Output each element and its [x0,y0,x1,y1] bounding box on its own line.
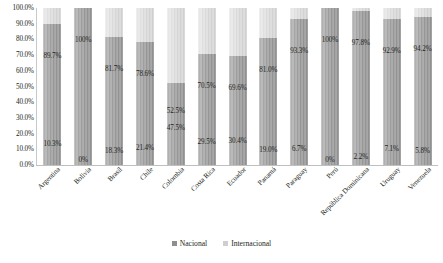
bar-segment-internacional[interactable] [105,8,123,37]
legend-swatch-icon [172,241,177,246]
bar-group[interactable] [105,8,123,165]
y-axis-tick-label: 0.0% [19,161,34,169]
value-label-nacional: 93.3% [290,47,308,55]
y-axis-tick-label: 30.0% [16,114,34,122]
value-label-nacional: 94.2% [414,45,432,53]
bar-segment-nacional[interactable] [321,8,339,165]
value-label-internacional: 47.5% [167,124,185,132]
x-axis-line [36,165,438,166]
legend-label: Internacional [231,239,271,248]
bar-group[interactable] [74,8,92,165]
value-label-internacional: 10.3% [43,140,61,148]
legend-item[interactable]: Nacional [172,239,207,248]
y-axis-tick-label: 10.0% [16,145,34,153]
y-axis: 0.0%10.0%20.0%30.0%40.0%50.0%60.0%70.0%8… [0,8,36,165]
chart-legend: NacionalInternacional [0,239,443,248]
value-label-internacional: 6.7% [292,145,307,153]
value-label-internacional: 18.3% [105,147,123,155]
y-axis-tick-label: 60.0% [16,67,34,75]
value-label-nacional: 92.9% [383,47,401,55]
bar-segment-internacional[interactable] [229,8,247,56]
y-axis-tick-label: 40.0% [16,98,34,106]
bar-segment-nacional[interactable] [414,17,432,165]
bar-group[interactable] [352,8,370,165]
legend-item[interactable]: Internacional [223,239,271,248]
y-axis-tick-label: 100.0% [12,4,34,12]
value-label-nacional: 52.5% [167,107,185,115]
value-label-nacional: 81.0% [259,66,277,74]
value-label-internacional: 30.4% [228,137,246,145]
bar-group[interactable] [290,8,308,165]
bar-segment-internacional[interactable] [290,8,308,19]
value-label-internacional: 29.5% [198,138,216,146]
value-label-nacional: 97.8% [352,39,370,47]
bar-segment-internacional[interactable] [259,8,277,38]
bar-group[interactable] [321,8,339,165]
value-label-nacional: 78.6% [136,70,154,78]
value-label-internacional: 19.0% [259,146,277,154]
value-label-nacional: 81.7% [105,65,123,73]
y-axis-tick-label: 70.0% [16,51,34,59]
y-axis-tick-label: 50.0% [16,83,34,91]
bar-group[interactable] [259,8,277,165]
x-axis-category-labels: ArgentinaBoliviaBrasilChileColombiaCosta… [37,167,438,229]
value-label-internacional: 2.2% [354,153,369,161]
bar-segment-internacional[interactable] [198,8,216,54]
y-axis-tick-label: 20.0% [16,130,34,138]
bar-segment-internacional[interactable] [414,8,432,17]
legend-label: Nacional [180,239,207,248]
bar-group[interactable] [167,8,185,165]
legend-swatch-icon [223,241,228,246]
bar-segment-internacional[interactable] [43,8,61,24]
value-label-nacional: 100% [75,36,91,44]
bar-segment-internacional[interactable] [167,8,185,83]
bar-segment-nacional[interactable] [352,11,370,165]
bar-group[interactable] [136,8,154,165]
y-axis-tick-label: 80.0% [16,35,34,43]
bar-segment-nacional[interactable] [74,8,92,165]
y-axis-tick-label: 90.0% [16,20,34,28]
bars-area: 10.3%89.7%0%100%18.3%81.7%21.4%78.6%47.5… [37,8,438,165]
bar-segment-nacional[interactable] [198,54,216,165]
bar-segment-internacional[interactable] [136,8,154,42]
value-label-nacional: 89.7% [43,52,61,60]
value-label-internacional: 21.4% [136,144,154,152]
bar-segment-internacional[interactable] [383,8,401,19]
value-label-internacional: 5.8% [415,147,430,155]
value-label-nacional: 100% [322,36,338,44]
value-label-nacional: 69.6% [228,84,246,92]
bar-group[interactable] [414,8,432,165]
stacked-bar-chart: 0.0%10.0%20.0%30.0%40.0%50.0%60.0%70.0%8… [0,0,443,263]
value-label-nacional: 70.5% [198,82,216,90]
bar-segment-nacional[interactable] [290,19,308,165]
